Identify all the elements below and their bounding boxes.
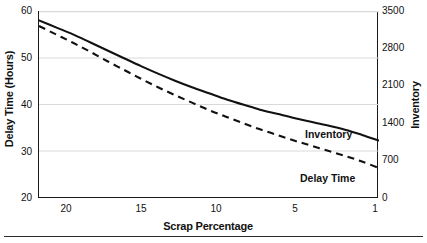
y-axis-right-tick-2800: 2800 xyxy=(382,42,408,53)
y-axis-right-tick-2100: 2100 xyxy=(382,79,408,90)
x-axis-tick-15: 15 xyxy=(129,203,153,214)
y-axis-right-title-text: Inventory xyxy=(409,81,421,129)
bottom-divider xyxy=(4,236,423,237)
y-axis-right-tick-700: 700 xyxy=(382,154,408,165)
y-axis-left-tick-30: 30 xyxy=(12,146,32,157)
plot-canvas xyxy=(39,11,379,198)
x-axis-title: Scrap Percentage xyxy=(38,220,378,232)
plot-area xyxy=(38,11,378,198)
x-axis-tick-5: 5 xyxy=(283,203,307,214)
y-axis-right-title: Inventory xyxy=(405,11,425,198)
y-axis-right-tick-3500: 3500 xyxy=(382,5,408,16)
chart-figure: Delay Time (Hours) Inventory Scrap Perce… xyxy=(0,0,427,243)
y-axis-left-tick-40: 40 xyxy=(12,99,32,110)
series-inventory-line xyxy=(39,20,379,140)
y-axis-left-tick-60: 60 xyxy=(12,5,32,16)
y-axis-left-tick-20: 20 xyxy=(12,192,32,203)
x-axis-tick-10: 10 xyxy=(204,203,228,214)
series-label-inventory: Inventory xyxy=(305,128,352,140)
series-delay-time-line xyxy=(39,26,379,168)
series-label-delay-time: Delay Time xyxy=(300,172,355,184)
y-axis-right-tick-0: 0 xyxy=(382,192,408,203)
x-axis-tick-1: 1 xyxy=(363,203,387,214)
y-axis-left-tick-50: 50 xyxy=(12,52,32,63)
x-axis-tick-20: 20 xyxy=(54,203,78,214)
y-axis-right-tick-1400: 1400 xyxy=(382,117,408,128)
